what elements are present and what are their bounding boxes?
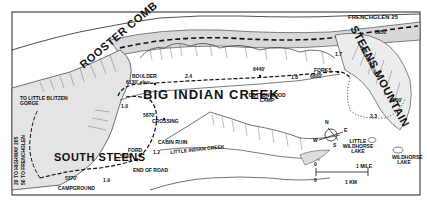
cottonwood-camp-label: COTTONWOOD CAMP <box>247 93 287 103</box>
cabin-ruin-label: CABIN RUIN <box>158 140 187 145</box>
crossing-label: CROSSING <box>152 119 179 124</box>
distance-1-6: 1.6 <box>291 75 298 80</box>
scale-zero-top: 0 <box>314 162 317 167</box>
highway-label-1: 20 TO HIGHWAY 205 <box>14 137 19 185</box>
end-of-road-label: END OF ROAD <box>133 168 168 173</box>
compass-south: S <box>333 143 336 148</box>
south-steens-line-label: SOUTH STEENS <box>54 152 146 163</box>
campground-label: CAMPGROUND <box>58 186 95 191</box>
compass-west: W <box>313 138 318 143</box>
scale-zero-bottom: 0 <box>314 178 317 183</box>
distance-3-3: 3.3 <box>370 114 377 119</box>
little-blitzen-label: TO LITTLE BLITZEN GORGE <box>20 96 70 106</box>
forks-elev: 6800' <box>310 74 322 79</box>
highway-label-2: 50 TO FRENCHGLEN <box>21 135 26 185</box>
scale-km: 1 KM <box>345 180 357 185</box>
little-wildhorse-lake-label: LITTLE WILDHORSE LAKE <box>340 139 376 154</box>
compass-east: E <box>344 128 347 133</box>
distance-2-4: 2.4 <box>185 74 192 79</box>
elev-9500: 9500' <box>390 98 402 103</box>
distance-1-2: 1.2 <box>153 150 160 155</box>
distance-1-9: 1.9 <box>103 178 110 183</box>
cottonwood-elev: 6440' <box>253 67 265 72</box>
wildhorse-lake-label: WILDHORSE LAKE <box>392 155 416 165</box>
compass-north: N <box>325 120 329 125</box>
distance-1-0: 1.0 <box>121 104 128 109</box>
frenchglen-label: FRENCHGLEN 25 <box>348 14 398 20</box>
boulder-elev: 6130' elev <box>126 80 149 85</box>
campground-elev: 5370' <box>65 176 77 181</box>
summit-elev: 8950' <box>375 30 387 35</box>
scale-mile: 1 MILE <box>356 164 372 169</box>
distance-1-7: 1.7 <box>335 52 342 57</box>
